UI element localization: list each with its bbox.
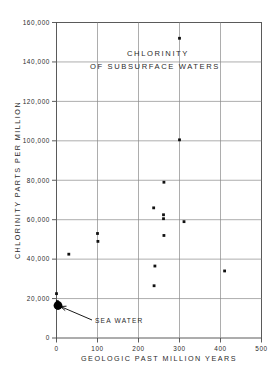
x-tick-label: 200: [132, 345, 144, 352]
data-point: [163, 181, 166, 184]
x-axis-title: GEOLOGIC PAST MILLION YEARS: [81, 354, 237, 363]
x-tick-label: 300: [173, 345, 185, 352]
sea-water-label: SEA WATER: [95, 317, 144, 324]
x-tick-marks: [57, 338, 262, 343]
chart-title-line2: OF SUBSURFACE WATERS: [90, 62, 220, 71]
data-point: [153, 284, 156, 287]
sea-water-marker: [54, 301, 63, 310]
x-tick-label: 0: [54, 345, 58, 352]
y-tick-label: 160,000: [23, 19, 50, 26]
x-tick-label: 100: [91, 345, 103, 352]
scatter-plot-svg: 0100200300400500 020,00040,00060,00080,0…: [0, 0, 280, 374]
y-tick-label: 140,000: [23, 58, 50, 65]
data-point: [162, 213, 165, 216]
data-point: [67, 253, 70, 256]
data-point: [163, 234, 166, 237]
data-point: [152, 206, 155, 209]
data-point: [178, 37, 181, 40]
y-axis-title: CHLORINITY PARTS PER MILLION: [13, 101, 22, 259]
sea-water-leader-line: [61, 307, 93, 321]
y-tick-label: 80,000: [27, 177, 50, 184]
x-tick-labels: 0100200300400500: [54, 345, 267, 352]
y-tick-labels: 020,00040,00060,00080,000100,000120,0001…: [23, 19, 50, 342]
sea-water-annotation: SEA WATER: [54, 301, 144, 324]
y-tick-label: 0: [46, 334, 50, 341]
x-tick-label: 400: [214, 345, 226, 352]
data-point: [223, 270, 226, 273]
data-point: [55, 292, 58, 295]
y-tick-label: 20,000: [27, 295, 50, 302]
data-point: [178, 138, 181, 141]
chart-title-line1: CHLORINITY: [127, 49, 189, 58]
data-point: [154, 265, 157, 268]
y-tick-label: 40,000: [27, 255, 50, 262]
data-point: [183, 220, 186, 223]
y-tick-label: 120,000: [23, 98, 50, 105]
data-point: [97, 240, 100, 243]
y-tick-label: 100,000: [23, 137, 50, 144]
y-tick-label: 60,000: [27, 216, 50, 223]
data-points: [55, 37, 226, 303]
x-tick-label: 500: [255, 345, 267, 352]
y-tick-marks: [52, 23, 57, 339]
data-point: [96, 232, 99, 235]
chart-figure: 0100200300400500 020,00040,00060,00080,0…: [0, 0, 280, 374]
data-point: [162, 217, 165, 220]
